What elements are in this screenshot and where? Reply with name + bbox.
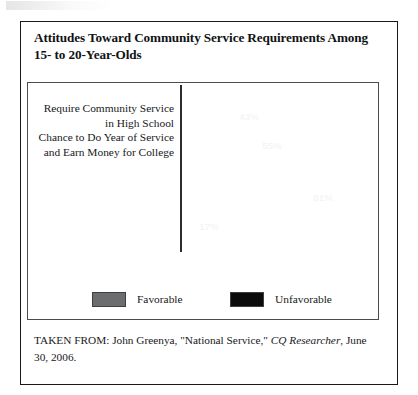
bar-value-label: 17% xyxy=(199,221,219,232)
legend-label-unfavorable: Unfavorable xyxy=(275,291,332,308)
source-publication: CQ Researcher xyxy=(271,334,341,346)
bar-unfavorable-55[interactable]: 55% xyxy=(182,134,289,156)
category-label-chance-to-do-year-of-service: Chance to Do Year of Service and Earn Mo… xyxy=(14,130,174,159)
category-label-require-community-service: Require Community Service in High School xyxy=(14,101,174,130)
scan-artifact xyxy=(6,1,114,10)
bar-value-label: 81% xyxy=(313,192,333,203)
bar-unfavorable-17[interactable]: 17% xyxy=(182,215,226,237)
source-prefix: TAKEN FROM: John Greenya, "National Serv… xyxy=(34,334,271,346)
source-citation: TAKEN FROM: John Greenya, "National Serv… xyxy=(34,332,376,366)
figure-container: Attitudes Toward Community Service Requi… xyxy=(20,21,398,385)
plot-area: Require Community Service in High School… xyxy=(27,82,379,320)
legend-swatch-unfavorable xyxy=(230,292,264,307)
figure-title: Attitudes Toward Community Service Requi… xyxy=(34,30,374,63)
bar-value-label: 55% xyxy=(262,140,282,151)
bar-favorable-43[interactable]: 43% xyxy=(182,105,266,127)
legend-swatch-favorable xyxy=(92,292,126,307)
bar-value-label: 43% xyxy=(239,111,259,122)
legend-label-favorable: Favorable xyxy=(137,291,183,308)
legend: Favorable Unfavorable xyxy=(28,291,378,313)
bar-favorable-81[interactable]: 81% xyxy=(182,186,340,208)
